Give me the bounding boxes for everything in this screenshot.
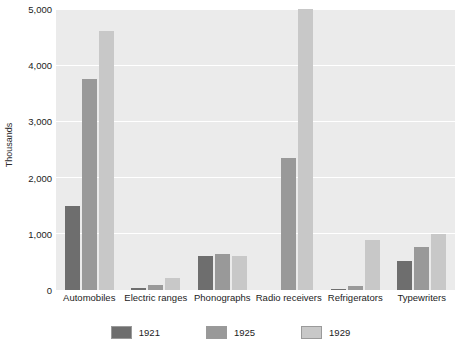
- bar-group: [389, 9, 456, 290]
- bar: [365, 240, 380, 290]
- bar: [165, 278, 180, 290]
- legend-item[interactable]: 1921: [111, 326, 160, 339]
- y-axis-tick-labels: 01,0002,0003,0004,0005,000: [16, 0, 56, 290]
- y-axis-tick-label: 4,000: [28, 60, 52, 71]
- bar-chart: Thousands 01,0002,0003,0004,0005,000 Aut…: [0, 0, 461, 348]
- y-axis-tick-label: 2,000: [28, 172, 52, 183]
- legend-swatch: [111, 326, 132, 339]
- chart-legend: 192119251929: [0, 322, 461, 342]
- y-axis-tick-label: 0: [47, 285, 52, 296]
- bar: [198, 256, 213, 290]
- legend-label: 1925: [234, 327, 255, 338]
- legend-swatch: [206, 326, 227, 339]
- bar: [298, 9, 313, 290]
- bar: [281, 158, 296, 290]
- bar-group: [256, 9, 323, 290]
- bar: [431, 234, 446, 290]
- bar: [331, 289, 346, 290]
- legend-label: 1929: [329, 327, 350, 338]
- bar: [65, 206, 80, 290]
- plot-area: [56, 9, 455, 290]
- bar: [82, 79, 97, 290]
- bar-group: [189, 9, 256, 290]
- bar: [232, 256, 247, 290]
- bar-group: [56, 9, 123, 290]
- y-axis-tick-label: 1,000: [28, 228, 52, 239]
- bar: [131, 288, 146, 290]
- bar: [414, 247, 429, 290]
- legend-label: 1921: [139, 327, 160, 338]
- bar: [348, 286, 363, 290]
- bar: [99, 31, 114, 290]
- x-axis-category-label: Radio receivers: [256, 292, 322, 303]
- x-axis-category-label: Automobiles: [63, 292, 115, 303]
- x-axis-category-label: Electric ranges: [124, 292, 187, 303]
- y-axis-title-label: Thousands: [4, 123, 14, 168]
- x-axis-category-label: Refrigerators: [328, 292, 383, 303]
- bar-group: [322, 9, 389, 290]
- y-axis-tick-label: 5,000: [28, 4, 52, 15]
- bar: [397, 261, 412, 290]
- y-axis-title: Thousands: [2, 0, 16, 290]
- y-axis-tick-label: 3,000: [28, 116, 52, 127]
- x-axis-category-label: Phonographs: [194, 292, 251, 303]
- x-axis-category-labels: AutomobilesElectric rangesPhonographsRad…: [56, 292, 455, 308]
- legend-item[interactable]: 1929: [301, 326, 350, 339]
- bar: [148, 285, 163, 290]
- legend-swatch: [301, 326, 322, 339]
- bar-group: [123, 9, 190, 290]
- legend-item[interactable]: 1925: [206, 326, 255, 339]
- bar: [215, 254, 230, 290]
- x-axis-category-label: Typewriters: [397, 292, 446, 303]
